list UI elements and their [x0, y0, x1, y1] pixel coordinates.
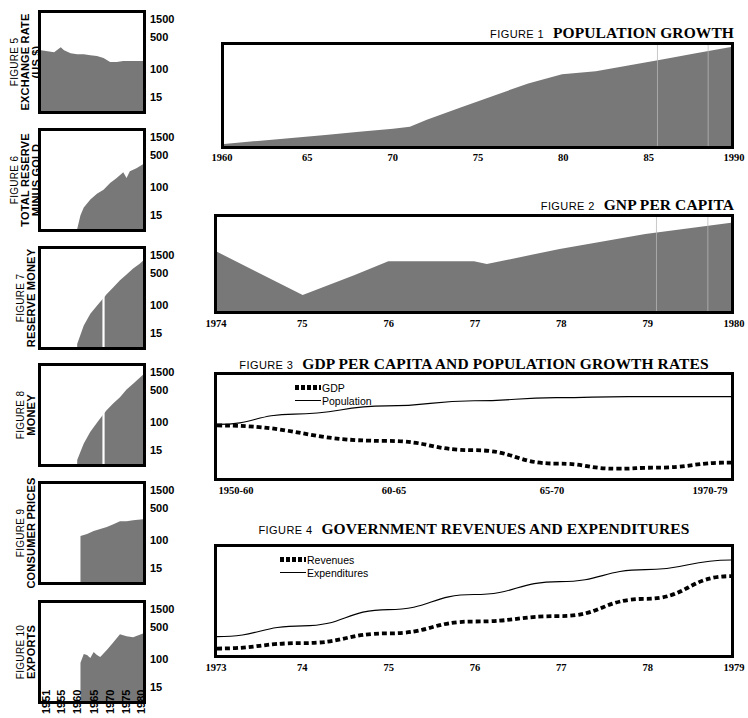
y-tick-label: 15 — [150, 563, 162, 574]
figure1-chart[interactable] — [221, 42, 734, 149]
figure1-heading: FIGURE 1 POPULATION GROWTH — [222, 24, 734, 42]
y-tick-label: 1500 — [150, 250, 174, 261]
figure3-heading: FIGURE 3 GDP PER CAPITA AND POPULATION G… — [214, 355, 734, 373]
fig9-plot — [41, 484, 143, 582]
x-tick-label: 78 — [642, 662, 653, 673]
legend-label: Population — [322, 395, 372, 407]
fig8-number: FIGURE 8 — [16, 391, 26, 440]
y-tick-label: 1500 — [150, 132, 174, 143]
small-figure-fig5: FIGURE 5EXCHANGE RATE(US $)150050010015 — [0, 10, 200, 128]
x-tick-label: 1975 — [120, 690, 132, 714]
x-tick-label: 77 — [556, 662, 567, 673]
dashed-line-swatch-icon — [280, 557, 306, 562]
fig7-title: RESERVE MONEY — [26, 249, 37, 347]
small-figure-fig6: FIGURE 6TOTAL RESERVEMINUS GOLD150050010… — [0, 128, 200, 246]
fig7-chart[interactable] — [38, 246, 146, 350]
x-tick-label: 1980 — [135, 690, 147, 714]
figure2-chart[interactable] — [214, 214, 734, 314]
figure1-number: FIGURE 1 — [490, 28, 544, 40]
small-figure-fig8: FIGURE 8MONEY150050010015 — [0, 363, 200, 481]
y-tick-label: 500 — [150, 268, 168, 279]
series-line-revenues — [217, 576, 731, 648]
fig7-plot — [41, 249, 143, 347]
x-tick-label: 70 — [387, 152, 398, 163]
figure2-x-axis: 197475767778791980 — [196, 318, 748, 332]
fig8-plot — [41, 366, 143, 464]
y-tick-label: 1500 — [150, 604, 174, 615]
figure2-number: FIGURE 2 — [541, 200, 595, 212]
fig9-chart[interactable] — [38, 481, 146, 585]
figure4-chart[interactable]: Revenues Expenditures — [214, 544, 734, 658]
y-tick-label: 100 — [150, 535, 168, 546]
y-tick-label: 15 — [150, 682, 162, 693]
figure3-x-axis: 1950-6060-6565-701970-79 — [196, 485, 748, 499]
y-tick-label: 15 — [150, 445, 162, 456]
figure4-x-axis: 197374757677781979 — [196, 662, 748, 676]
fig7-number: FIGURE 7 — [16, 274, 26, 323]
x-tick-label: 1973 — [206, 662, 227, 673]
y-tick-label: 500 — [150, 503, 168, 514]
fig9-title: CONSUMER PRICES — [26, 477, 37, 588]
figure4-title: GOVERNMENT REVENUES AND EXPENDITURES — [321, 520, 689, 538]
fig10-number: FIGURE 10 — [16, 625, 26, 679]
fig6-plot — [41, 131, 143, 229]
x-tick-label: 76 — [383, 318, 394, 329]
legend-item-population: Population — [295, 394, 372, 407]
fig9-y-axis: 150050010015 — [150, 481, 198, 585]
figure1-x-axis: 196065707580851990 — [200, 152, 748, 166]
y-tick-label: 100 — [150, 64, 168, 75]
x-tick-label: 79 — [642, 318, 653, 329]
small-figure-fig9: FIGURE 9CONSUMER PRICES150050010015 — [0, 481, 200, 599]
x-tick-label: 85 — [643, 152, 654, 163]
x-tick-label: 1974 — [206, 318, 227, 329]
x-tick-label: 76 — [470, 662, 481, 673]
fig6-chart[interactable] — [38, 128, 146, 232]
solid-line-swatch-icon — [295, 400, 321, 402]
y-tick-label: 15 — [150, 92, 162, 103]
x-tick-label: 75 — [383, 662, 394, 673]
fig10-title: EXPORTS — [26, 625, 37, 679]
legend-item-revenues: Revenues — [280, 553, 368, 566]
figure2-title: GNP PER CAPITA — [604, 196, 734, 214]
figure4-number: FIGURE 4 — [259, 524, 313, 536]
x-tick-label: 65-70 — [540, 485, 565, 496]
figure2-heading: FIGURE 2 GNP PER CAPITA — [222, 196, 734, 214]
area-fill — [80, 519, 143, 582]
area-fill — [224, 47, 731, 146]
x-tick-label: 1970-79 — [693, 485, 728, 496]
x-tick-label: 74 — [297, 662, 308, 673]
fig8-chart[interactable] — [38, 363, 146, 467]
solid-line-swatch-icon — [280, 572, 306, 574]
y-tick-label: 100 — [150, 300, 168, 311]
y-tick-label: 15 — [150, 210, 162, 221]
figure3-chart[interactable]: GDP Population — [214, 372, 734, 481]
x-tick-label: 1955 — [55, 690, 67, 714]
figure3-number: FIGURE 3 — [239, 359, 293, 371]
x-tick-label: 80 — [558, 152, 569, 163]
x-tick-label: 1951 — [40, 690, 52, 714]
left-column-year-axis: 1951195519601965197019751980 — [38, 676, 148, 718]
fig5-chart[interactable] — [38, 10, 146, 114]
x-tick-label: 65 — [302, 152, 313, 163]
y-tick-label: 500 — [150, 622, 168, 633]
fig8-title: MONEY — [26, 394, 37, 435]
y-tick-label: 1500 — [150, 367, 174, 378]
area-fill — [77, 375, 143, 464]
figure1-title: POPULATION GROWTH — [553, 24, 734, 42]
legend-item-gdp: GDP — [295, 381, 372, 394]
x-tick-label: 1965 — [88, 690, 100, 714]
x-tick-label: 78 — [556, 318, 567, 329]
area-fill — [77, 261, 143, 347]
fig9-number: FIGURE 9 — [16, 509, 26, 558]
x-tick-label: 1990 — [724, 152, 745, 163]
series-line-gdp — [217, 425, 731, 468]
left-figure-column: FIGURE 5EXCHANGE RATE(US $)150050010015F… — [0, 0, 200, 718]
y-tick-label: 1500 — [150, 14, 174, 25]
y-tick-label: 100 — [150, 182, 168, 193]
y-tick-label: 500 — [150, 150, 168, 161]
x-tick-label: 1950-60 — [219, 485, 254, 496]
figure2-plot — [217, 217, 731, 311]
x-tick-label: 1960 — [71, 690, 83, 714]
legend-label: Revenues — [307, 554, 354, 566]
x-tick-label: 1979 — [724, 662, 745, 673]
